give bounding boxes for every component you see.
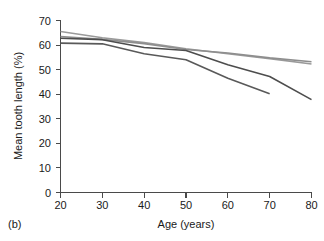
panel-label: (b)	[8, 218, 21, 230]
y-tick-label-50: 50	[39, 64, 51, 76]
x-tick-marks	[61, 193, 312, 198]
x-tick-label-70: 70	[264, 199, 276, 211]
x-axis-title: Age (years)	[158, 218, 215, 230]
y-tick-label-0: 0	[45, 187, 51, 199]
y-tick-marks	[56, 21, 61, 193]
y-tick-label-10: 10	[39, 162, 51, 174]
figure-panel-b: 70 60 50 40 30 20 10 0 20 30 40 50 60 70	[0, 0, 324, 241]
series-layer	[61, 32, 312, 100]
axes	[61, 21, 312, 193]
y-tick-label-40: 40	[39, 88, 51, 100]
x-tick-label-20: 20	[54, 199, 66, 211]
y-tick-labels: 70 60 50 40 30 20 10 0	[39, 15, 51, 199]
y-tick-label-60: 60	[39, 39, 51, 51]
y-axis-title: Mean tooth length (%)	[12, 52, 24, 160]
x-tick-labels: 20 30 40 50 60 70 80	[54, 199, 317, 211]
y-tick-label-70: 70	[39, 15, 51, 27]
x-tick-label-60: 60	[222, 199, 234, 211]
chart-svg: 70 60 50 40 30 20 10 0 20 30 40 50 60 70	[0, 0, 324, 241]
x-tick-label-50: 50	[180, 199, 192, 211]
x-tick-label-80: 80	[305, 199, 317, 211]
y-tick-label-30: 30	[39, 113, 51, 125]
y-tick-label-20: 20	[39, 137, 51, 149]
series-line-series-3	[61, 38, 312, 99]
x-tick-label-30: 30	[96, 199, 108, 211]
x-tick-label-40: 40	[138, 199, 150, 211]
